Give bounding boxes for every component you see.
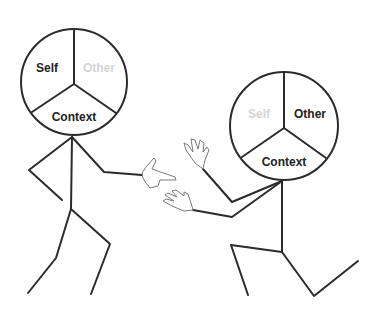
left-self-label: Self (36, 61, 59, 75)
left-leg-front (71, 209, 110, 294)
right-head-divider (242, 128, 284, 157)
left-leg-back (28, 209, 71, 293)
left-head-divider (74, 84, 116, 113)
left-context-label: Context (52, 110, 97, 124)
left-arm-pointing (72, 137, 142, 175)
stick-figures-diagram: Self Other Context Self Other Context (0, 0, 380, 312)
diagram-canvas: Self Other Context Self Other Context (0, 0, 380, 312)
right-leg-back (231, 245, 282, 295)
right-self-label: Self (248, 107, 271, 121)
left-head-divider (32, 84, 74, 112)
right-head-divider (284, 128, 326, 158)
left-body (71, 137, 72, 209)
right-arm-upper (203, 169, 282, 202)
pointing-hand-icon (142, 158, 176, 188)
left-arm-back (29, 137, 72, 200)
right-other-label: Other (294, 107, 326, 121)
open-hand-lower-icon (163, 190, 193, 211)
left-other-label: Other (83, 61, 115, 75)
right-context-label: Context (262, 155, 307, 169)
right-figure (193, 72, 358, 296)
open-hand-upper-icon (184, 139, 209, 169)
right-leg-front (282, 252, 358, 296)
